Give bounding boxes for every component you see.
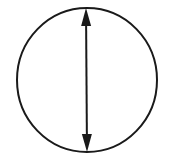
diameter-diagram bbox=[0, 0, 170, 160]
diameter-line bbox=[86, 24, 87, 136]
arrowhead-down-icon bbox=[82, 134, 92, 152]
arrowhead-up-icon bbox=[81, 8, 91, 26]
diameter-arrow bbox=[81, 8, 92, 152]
